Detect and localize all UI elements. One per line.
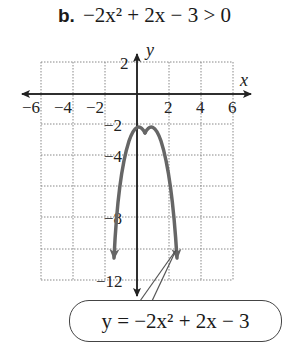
x-tick-label: 2: [164, 98, 173, 117]
x-tick-label: −6: [22, 98, 40, 117]
y-tick-label: −2: [104, 116, 122, 135]
y-axis-label: y: [144, 40, 154, 60]
equation-callout: y = −2x² + 2x − 3: [69, 300, 282, 342]
y-tick-label: 2: [120, 54, 129, 73]
x-tick-label: −2: [86, 98, 104, 117]
y-tick-label: −8: [104, 209, 122, 228]
callout-pointer: [140, 250, 176, 301]
parabola-graph: x y −6 −4 −2 2 4 6 2 −2 −4 −8 −12: [0, 0, 286, 350]
y-tick-label: −4: [104, 147, 123, 166]
callout-equation: y = −2x² + 2x − 3: [70, 309, 281, 334]
x-axis-label: x: [239, 70, 248, 90]
x-tick-label: −4: [54, 98, 73, 117]
y-tick-label: −12: [96, 272, 123, 291]
x-tick-label: 4: [196, 98, 205, 117]
x-tick-label: 6: [228, 98, 237, 117]
